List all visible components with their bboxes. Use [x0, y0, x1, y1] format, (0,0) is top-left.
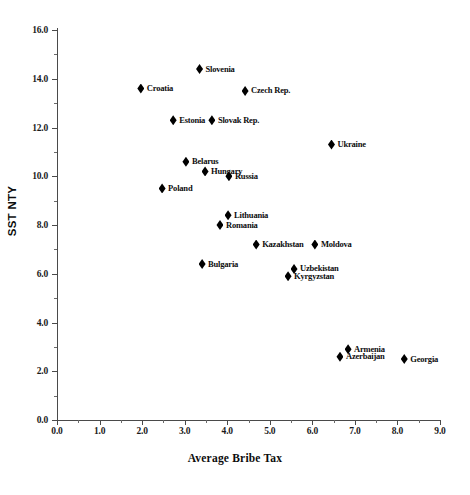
y-tick-minor — [54, 347, 57, 348]
x-tick-major — [397, 420, 398, 425]
x-tick-minor — [121, 420, 122, 423]
data-point-label: Croatia — [147, 83, 173, 93]
x-tick-minor — [78, 420, 79, 423]
diamond-marker-icon — [242, 86, 249, 96]
x-tick-major — [355, 420, 356, 425]
y-tick-label: 2.0 — [0, 366, 48, 376]
y-tick-major — [52, 274, 57, 275]
x-tick-major — [142, 420, 143, 425]
diamond-marker-icon — [253, 240, 260, 250]
x-tick-minor — [419, 420, 420, 423]
x-tick-major — [312, 420, 313, 425]
y-tick-label: 0.0 — [0, 415, 48, 425]
data-point-label: Estonia — [179, 115, 205, 125]
data-point-label: Slovak Rep. — [218, 115, 259, 125]
y-tick-major — [52, 371, 57, 372]
y-tick-minor — [54, 103, 57, 104]
y-tick-minor — [54, 396, 57, 397]
x-tick-major — [185, 420, 186, 425]
y-tick-major — [52, 128, 57, 129]
data-point-label: Kazakhstan — [262, 239, 303, 249]
x-tick-major — [57, 420, 58, 425]
data-point-label: Kyrgyzstan — [294, 271, 334, 281]
data-point-label: Ukraine — [337, 139, 365, 149]
diamond-marker-icon — [202, 166, 209, 176]
diamond-marker-icon — [137, 84, 144, 94]
y-tick-minor — [54, 249, 57, 250]
y-tick-major — [52, 30, 57, 31]
x-tick-label: 4.0 — [209, 426, 245, 436]
diamond-marker-icon — [336, 352, 343, 362]
y-tick-major — [52, 176, 57, 177]
x-tick-label: 2.0 — [124, 426, 160, 436]
diamond-marker-icon — [328, 140, 335, 150]
x-tick-major — [270, 420, 271, 425]
diamond-marker-icon — [285, 271, 292, 281]
x-tick-major — [440, 420, 441, 425]
y-tick-minor — [54, 152, 57, 153]
x-tick-minor — [334, 420, 335, 423]
diamond-marker-icon — [199, 259, 206, 269]
x-tick-label: 5.0 — [252, 426, 288, 436]
diamond-marker-icon — [159, 183, 166, 193]
y-tick-major — [52, 79, 57, 80]
data-point-label: Russia — [235, 171, 258, 181]
y-tick-major — [52, 323, 57, 324]
data-point-label: Lithuania — [234, 210, 268, 220]
y-tick-minor — [54, 201, 57, 202]
data-point-label: Slovenia — [206, 64, 235, 74]
x-tick-minor — [163, 420, 164, 423]
x-tick-minor — [291, 420, 292, 423]
data-point-label: Belarus — [192, 156, 218, 166]
y-tick-label: 4.0 — [0, 318, 48, 328]
data-point-label: Romania — [226, 220, 258, 230]
y-tick-major — [52, 225, 57, 226]
data-point-label: Georgia — [410, 354, 438, 364]
data-point-label: Azerbaijan — [346, 351, 385, 361]
y-axis-line — [57, 28, 58, 421]
y-tick-minor — [54, 54, 57, 55]
diamond-marker-icon — [208, 115, 215, 125]
y-axis-title: SST NTY — [6, 151, 18, 271]
diamond-marker-icon — [170, 115, 177, 125]
y-tick-minor — [54, 298, 57, 299]
x-tick-label: 7.0 — [337, 426, 373, 436]
diamond-marker-icon — [311, 240, 318, 250]
x-tick-minor — [376, 420, 377, 423]
data-point-label: Poland — [168, 183, 192, 193]
x-tick-label: 1.0 — [82, 426, 118, 436]
x-tick-label: 8.0 — [379, 426, 415, 436]
x-tick-major — [227, 420, 228, 425]
diamond-marker-icon — [196, 64, 203, 74]
y-tick-label: 14.0 — [0, 74, 48, 84]
diamond-marker-icon — [401, 354, 408, 364]
diamond-marker-icon — [182, 157, 189, 167]
x-tick-label: 3.0 — [167, 426, 203, 436]
data-point-label: Bulgaria — [208, 259, 238, 269]
data-point-label: Czech Rep. — [251, 85, 290, 95]
diamond-marker-icon — [216, 220, 223, 230]
y-tick-label: 12.0 — [0, 123, 48, 133]
x-axis-title: Average Bribe Tax — [0, 452, 470, 464]
x-tick-minor — [206, 420, 207, 423]
x-tick-label: 0.0 — [39, 426, 75, 436]
y-tick-label: 16.0 — [0, 25, 48, 35]
x-tick-major — [100, 420, 101, 425]
x-tick-label: 6.0 — [294, 426, 330, 436]
scatter-chart: 0.02.04.06.08.010.012.014.016.0 0.01.02.… — [0, 0, 470, 495]
x-tick-minor — [249, 420, 250, 423]
data-point-label: Moldova — [321, 239, 352, 249]
x-tick-label: 9.0 — [422, 426, 458, 436]
